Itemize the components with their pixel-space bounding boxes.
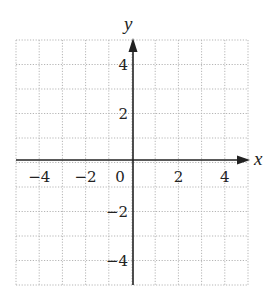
x-tick-label: −4 <box>28 168 50 186</box>
x-tick-label: −2 <box>75 168 97 186</box>
y-tick-label: −4 <box>106 252 128 270</box>
x-tick-label: 2 <box>174 168 184 186</box>
y-tick-label: −2 <box>106 203 128 221</box>
x-tick-label: 0 <box>115 168 125 186</box>
x-axis-arrow-icon <box>237 156 250 165</box>
y-axis-arrow-icon <box>129 38 138 52</box>
x-axis-label: x <box>253 148 263 169</box>
grid-lines <box>16 40 248 285</box>
coordinate-plane: −4−2024−4−224 x y <box>0 0 279 302</box>
y-tick-label: 4 <box>118 56 128 74</box>
x-tick-label: 4 <box>220 168 230 186</box>
y-tick-label: 2 <box>118 105 128 123</box>
axes <box>16 38 250 285</box>
y-axis-label: y <box>122 13 133 34</box>
